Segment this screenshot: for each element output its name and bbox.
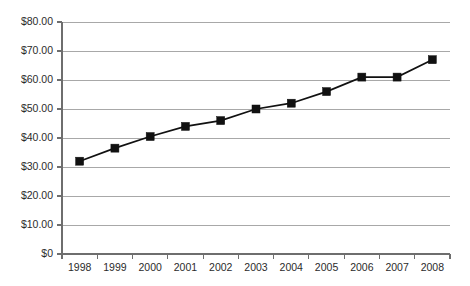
x-axis-tick-label: 2005	[315, 261, 339, 273]
x-axis-tick-label: 2004	[280, 261, 304, 273]
data-point-marker	[393, 73, 401, 81]
x-axis-tick-label: 1999	[103, 261, 127, 273]
y-axis-tick-label: $70.00	[21, 44, 53, 56]
x-axis-tick-label: 2008	[421, 261, 445, 273]
data-point-marker	[358, 73, 366, 81]
data-point-marker	[181, 122, 189, 130]
data-point-marker	[428, 56, 436, 64]
data-point-marker	[217, 117, 225, 125]
y-axis-tick-label: $0	[41, 247, 53, 259]
data-point-marker	[146, 133, 154, 141]
x-axis-tick-labels: 1998199920002001200220032004200520062007…	[68, 261, 444, 273]
chart-container: $0$10.00$20.00$30.00$40.00$50.00$60.00$7…	[0, 0, 470, 286]
y-axis-tick-labels: $0$10.00$20.00$30.00$40.00$50.00$60.00$7…	[21, 15, 53, 259]
x-axis-tick-label: 1998	[68, 261, 92, 273]
x-axis-tick-label: 2001	[174, 261, 198, 273]
x-axis-tick-label: 2007	[385, 261, 409, 273]
y-axis-tick-label: $40.00	[21, 131, 53, 143]
chart-background	[0, 0, 470, 286]
x-axis-tick-label: 2000	[139, 261, 163, 273]
data-point-marker	[323, 88, 331, 96]
data-point-marker	[287, 99, 295, 107]
y-axis-tick-label: $30.00	[21, 160, 53, 172]
line-chart: $0$10.00$20.00$30.00$40.00$50.00$60.00$7…	[0, 0, 470, 286]
data-point-marker	[111, 144, 119, 152]
x-axis-tick-label: 2002	[209, 261, 233, 273]
y-axis-tick-label: $60.00	[21, 73, 53, 85]
y-axis-tick-label: $20.00	[21, 189, 53, 201]
y-axis-tick-label: $50.00	[21, 102, 53, 114]
x-axis-tick-label: 2006	[350, 261, 374, 273]
y-axis-tick-label: $80.00	[21, 15, 53, 27]
x-axis-tick-label: 2003	[244, 261, 268, 273]
y-axis-tick-label: $10.00	[21, 218, 53, 230]
data-point-marker	[76, 157, 84, 165]
data-point-marker	[252, 105, 260, 113]
